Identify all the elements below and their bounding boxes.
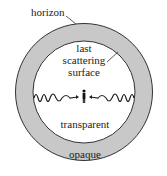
opaque-label: opaque bbox=[69, 148, 101, 160]
last-scattering-label-line1: last bbox=[76, 42, 91, 54]
last-scattering-label-line3: surface bbox=[68, 66, 100, 78]
horizon-label: horizon bbox=[31, 6, 65, 18]
transparent-label: transparent bbox=[61, 118, 110, 130]
last-scattering-label-line2: scattering bbox=[63, 54, 106, 66]
cmb-diagram: horizon last scattering surface transpar… bbox=[0, 0, 167, 176]
horizon-leader-line bbox=[66, 16, 76, 24]
